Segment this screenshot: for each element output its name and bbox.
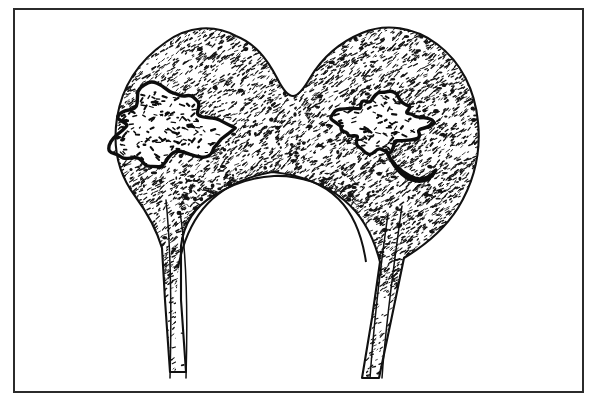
bone-illustration-canvas bbox=[0, 0, 593, 404]
figure-root: Stippled line drawing of a bone end with… bbox=[0, 0, 593, 404]
